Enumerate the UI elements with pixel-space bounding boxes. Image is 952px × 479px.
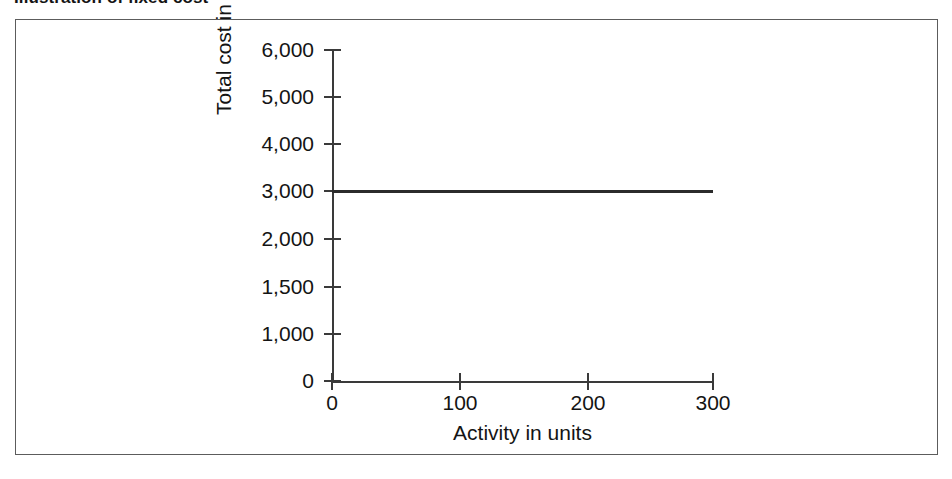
x-axis-tick-label: 100 [415, 392, 505, 413]
figure-title: Illustration of fixed cost [14, 0, 208, 8]
x-axis-tick [459, 373, 461, 390]
y-axis-tick [324, 49, 341, 51]
figure-frame: 6,0005,0004,0003,0002,0001,5001,0000 010… [15, 19, 938, 455]
fixed-cost-line-segment [332, 190, 460, 193]
y-axis-tick [324, 96, 341, 98]
fixed-cost-line-segment [460, 190, 588, 193]
x-axis-tick [587, 373, 589, 390]
fixed-cost-line-segment [588, 190, 713, 193]
y-axis-tick-label: 1,000 [218, 323, 314, 344]
y-axis-tick-label: 4,000 [218, 133, 314, 154]
x-axis-tick-label: 0 [287, 392, 377, 413]
x-axis-title: Activity in units [332, 422, 713, 443]
y-axis-tick-label: 2,000 [218, 228, 314, 249]
y-axis-tick [324, 333, 341, 335]
y-axis-tick [324, 238, 341, 240]
y-axis-tick-label: 0 [218, 370, 314, 391]
x-axis-line [332, 381, 713, 383]
x-axis-tick [331, 373, 333, 390]
x-axis-tick-label: 200 [543, 392, 633, 413]
plot-area: 6,0005,0004,0003,0002,0001,5001,0000 010… [16, 20, 939, 456]
x-axis-tick [712, 373, 714, 390]
y-axis-tick [324, 286, 341, 288]
x-axis-tick-label: 300 [668, 392, 758, 413]
y-axis-tick-label: 3,000 [218, 180, 314, 201]
y-axis-tick [324, 143, 341, 145]
y-axis-tick-label: 1,500 [218, 276, 314, 297]
y-axis-title: Total cost in £s [213, 0, 234, 115]
